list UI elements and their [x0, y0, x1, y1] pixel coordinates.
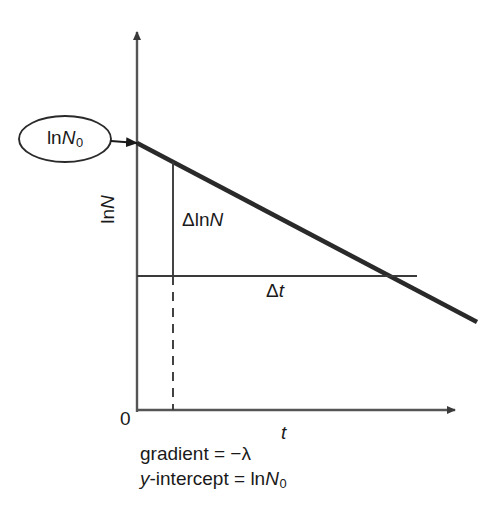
plot-canvas	[0, 0, 502, 519]
y-axis-label-ln: ln	[97, 209, 118, 224]
y-axis-label: lnN	[98, 184, 117, 236]
delta-t-symbol: t	[279, 280, 284, 301]
delta-t-delta: Δ	[266, 280, 279, 301]
delta-ln-n-symbol: N	[210, 209, 224, 230]
x-axis-label: t	[281, 423, 286, 442]
delta-ln-n-label: ΔlnN	[182, 210, 224, 229]
decay-graph-figure: lnN0 lnN t 0 ΔlnN Δt gradient = −λ y-int…	[0, 0, 502, 519]
caption-gradient-line: gradient = −λ	[140, 444, 287, 463]
callout-symbol: N	[62, 127, 76, 148]
caption-gradient-equals: =	[214, 443, 225, 464]
caption-intercept-subscript: 0	[279, 476, 286, 491]
caption-gradient-label: gradient	[140, 443, 209, 464]
caption-block: gradient = −λ y-intercept = lnN0	[140, 444, 287, 497]
caption-gradient-value: −λ	[230, 443, 251, 464]
caption-intercept-label: -intercept	[150, 468, 229, 489]
y-intercept-callout-label: lnN0	[26, 128, 104, 150]
delta-ln-n-ln: ln	[195, 209, 210, 230]
delta-ln-n-delta: Δ	[182, 209, 195, 230]
delta-t-label: Δt	[266, 281, 284, 300]
y-axis-label-symbol: N	[97, 195, 118, 209]
caption-intercept-y: y	[140, 468, 150, 489]
decay-line	[137, 143, 477, 322]
caption-intercept-line: y-intercept = lnN0	[140, 469, 287, 491]
caption-intercept-ln: ln	[250, 468, 265, 489]
caption-intercept-equals: =	[234, 468, 245, 489]
callout-ln: ln	[47, 127, 62, 148]
origin-label: 0	[120, 409, 131, 428]
callout-subscript: 0	[76, 135, 83, 150]
caption-intercept-symbol: N	[265, 468, 279, 489]
callout-arrow	[111, 141, 137, 143]
